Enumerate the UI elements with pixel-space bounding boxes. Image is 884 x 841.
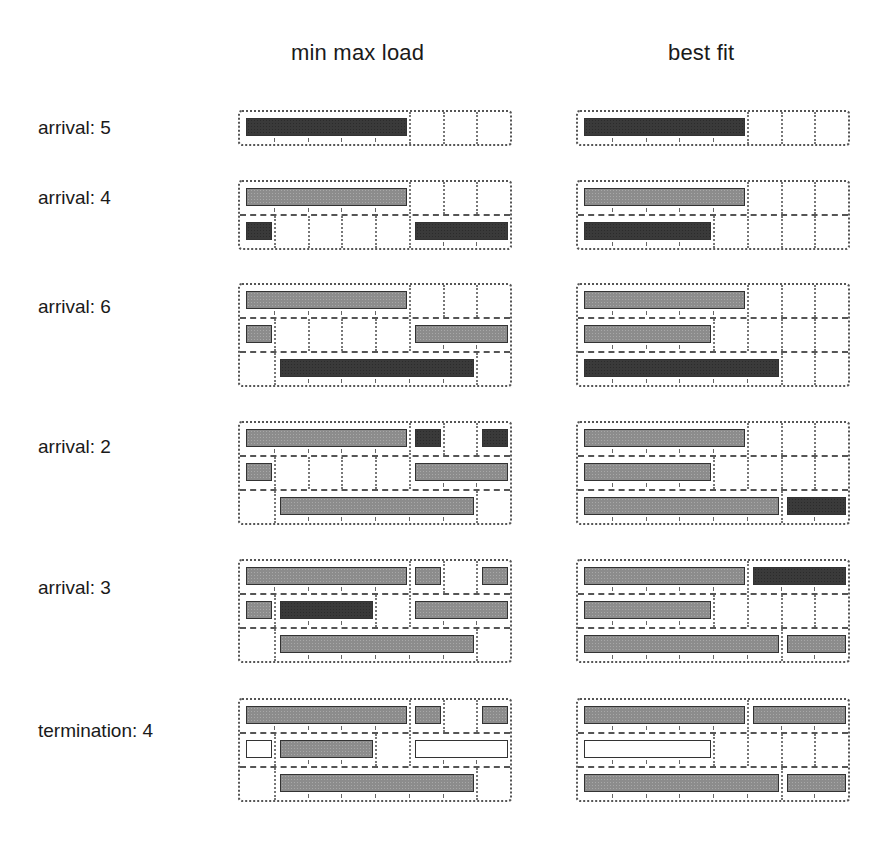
slot-tick xyxy=(375,655,376,659)
slot-tick xyxy=(612,726,613,730)
slot-divider xyxy=(814,353,816,385)
job-bar-gray xyxy=(280,497,475,515)
slot-divider xyxy=(747,423,749,455)
slot-tick xyxy=(308,794,309,798)
slot-tick xyxy=(713,311,714,315)
slot-tick xyxy=(443,760,444,764)
grid-min-max-load-step-5 xyxy=(238,698,512,802)
slot-tick xyxy=(679,242,680,246)
slot-tick xyxy=(308,311,309,315)
slot-tick xyxy=(781,726,782,730)
slot-tick xyxy=(375,726,376,730)
slot-divider xyxy=(274,768,276,800)
slot-tick xyxy=(679,311,680,315)
slot-tick xyxy=(409,517,410,521)
grid-best-fit-step-2 xyxy=(576,283,850,387)
slot-tick xyxy=(679,449,680,453)
slot-divider xyxy=(341,457,343,489)
slot-tick xyxy=(308,655,309,659)
slot-tick xyxy=(612,587,613,591)
slot-tick xyxy=(443,379,444,383)
slot-tick xyxy=(612,311,613,315)
slot-tick xyxy=(409,794,410,798)
row-divider xyxy=(578,489,848,491)
slot-divider xyxy=(341,216,343,248)
slot-tick xyxy=(612,242,613,246)
slot-tick xyxy=(646,621,647,625)
slot-tick xyxy=(646,138,647,142)
step-label-arrival-2: arrival: 2 xyxy=(38,436,111,458)
slot-tick xyxy=(476,345,477,349)
slot-tick xyxy=(443,242,444,246)
slot-divider xyxy=(781,491,783,523)
step-label-termination-4: termination: 4 xyxy=(38,720,153,742)
job-bar-gray xyxy=(584,635,779,653)
slot-tick xyxy=(308,517,309,521)
job-bar-gray xyxy=(246,325,272,343)
job-bar-gray xyxy=(280,635,475,653)
job-bar-gray xyxy=(246,429,407,447)
slot-divider xyxy=(476,182,478,214)
slot-tick xyxy=(814,587,815,591)
slot-divider xyxy=(308,319,310,351)
slot-tick xyxy=(747,517,748,521)
slot-divider xyxy=(443,112,445,144)
step-label-arrival-4: arrival: 4 xyxy=(38,187,111,209)
slot-divider xyxy=(476,768,478,800)
slot-tick xyxy=(375,517,376,521)
step-label-arrival-5: arrival: 5 xyxy=(38,117,111,139)
slot-divider xyxy=(476,353,478,385)
slot-tick xyxy=(646,449,647,453)
job-bar-white xyxy=(584,740,711,758)
slot-tick xyxy=(679,379,680,383)
job-bar-gray xyxy=(482,567,508,585)
slot-divider xyxy=(375,734,377,766)
slot-divider xyxy=(274,457,276,489)
slot-tick xyxy=(612,483,613,487)
slot-divider xyxy=(781,112,783,144)
job-bar-dark xyxy=(246,118,407,136)
slot-divider xyxy=(274,216,276,248)
slot-divider xyxy=(409,734,411,766)
slot-tick xyxy=(679,760,680,764)
slot-tick xyxy=(274,726,275,730)
slot-tick xyxy=(274,587,275,591)
slot-tick xyxy=(476,760,477,764)
job-bar-dark xyxy=(246,222,272,240)
slot-divider xyxy=(814,319,816,351)
slot-tick xyxy=(341,449,342,453)
slot-tick xyxy=(713,517,714,521)
slot-tick xyxy=(646,760,647,764)
slot-divider xyxy=(814,423,816,455)
slot-divider xyxy=(409,423,411,455)
slot-divider xyxy=(476,491,478,523)
slot-tick xyxy=(646,242,647,246)
slot-divider xyxy=(713,319,715,351)
job-bar-white xyxy=(246,740,272,758)
slot-divider xyxy=(274,629,276,661)
slot-tick xyxy=(814,794,815,798)
slot-tick xyxy=(612,760,613,764)
slot-divider xyxy=(274,353,276,385)
slot-divider xyxy=(747,595,749,627)
slot-tick xyxy=(443,345,444,349)
slot-divider xyxy=(713,595,715,627)
slot-tick xyxy=(814,517,815,521)
job-bar-dark xyxy=(415,222,508,240)
slot-divider xyxy=(476,285,478,317)
slot-divider xyxy=(308,457,310,489)
slot-tick xyxy=(679,483,680,487)
row-divider xyxy=(240,766,510,768)
slot-tick xyxy=(612,621,613,625)
slot-divider xyxy=(409,112,411,144)
slot-tick xyxy=(274,138,275,142)
slot-tick xyxy=(713,726,714,730)
slot-tick xyxy=(713,208,714,212)
slot-tick xyxy=(375,449,376,453)
job-bar-gray xyxy=(482,706,508,724)
slot-tick xyxy=(612,138,613,142)
slot-tick xyxy=(341,794,342,798)
row-divider xyxy=(240,627,510,629)
slot-tick xyxy=(612,379,613,383)
slot-tick xyxy=(713,379,714,383)
